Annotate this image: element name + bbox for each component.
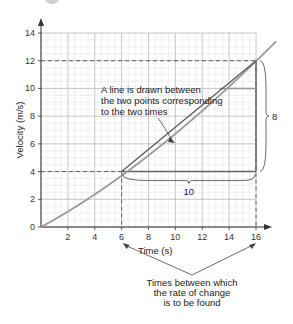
chord-label-line: A line is drawn between — [101, 84, 201, 95]
grid — [41, 33, 256, 227]
times-label-line: is to be found — [163, 297, 220, 308]
y-tick-label: 2 — [30, 194, 35, 204]
corner-marker — [44, 0, 60, 4]
chord-label-line: the two points corresponding — [101, 95, 222, 106]
arrow-to-16 — [192, 245, 253, 275]
x-axis-label: Time (s) — [138, 245, 172, 256]
y-tick-label: 14 — [25, 28, 35, 38]
x-axis-arrow-icon — [264, 224, 272, 230]
y-tick-label: 0 — [30, 222, 35, 232]
chord-label-line: to the two times — [101, 106, 168, 117]
y-tick-label: 4 — [30, 167, 35, 177]
run-label: 10 — [184, 186, 195, 197]
rise-brace — [260, 61, 269, 172]
velocity-time-chart: 02468101214246810121416Velocity (m/s)Tim… — [0, 0, 293, 324]
x-tick-label: 4 — [92, 232, 97, 242]
x-tick-label: 6 — [119, 232, 124, 242]
y-tick-label: 12 — [25, 56, 35, 66]
arrow-head-icon — [123, 243, 130, 249]
annotations: A line is drawn betweenthe two points co… — [101, 61, 277, 308]
rise-label: 8 — [272, 111, 277, 122]
arrow-head-icon — [249, 243, 256, 249]
x-tick-label: 12 — [197, 232, 207, 242]
x-tick-label: 8 — [146, 232, 151, 242]
y-tick-label: 6 — [30, 139, 35, 149]
x-tick-label: 2 — [65, 232, 70, 242]
y-tick-label: 8 — [30, 111, 35, 121]
x-tick-label: 16 — [251, 232, 261, 242]
y-tick-label: 10 — [25, 83, 35, 93]
y-axis-label: Velocity (m/s) — [14, 101, 25, 158]
x-tick-label: 14 — [224, 232, 234, 242]
y-axis-arrow-icon — [38, 18, 44, 26]
x-tick-label: 10 — [170, 232, 180, 242]
